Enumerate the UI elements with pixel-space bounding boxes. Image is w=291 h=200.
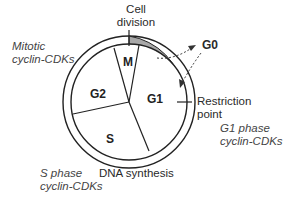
restriction-line1: Restriction	[197, 95, 251, 108]
phase-g1-label: G1	[147, 92, 163, 106]
g0-label: G0	[202, 39, 218, 52]
g1-cdk-label: G1 phase cyclin-CDKs	[220, 122, 283, 148]
cell-division-label: Cell division	[111, 3, 161, 29]
dna-synthesis-label: DNA synthesis	[99, 167, 174, 180]
phase-s-label: S	[106, 132, 114, 146]
restriction-point-label: Restriction point	[197, 95, 251, 121]
phase-g2-label: G2	[90, 87, 106, 101]
mitotic-line2: cyclin-CDKs	[12, 53, 75, 66]
g1cdk-line1: G1 phase	[220, 122, 283, 135]
mitotic-line1: Mitotic	[12, 40, 75, 53]
restriction-line2: point	[197, 108, 251, 121]
g1cdk-line2: cyclin-CDKs	[220, 135, 283, 148]
scdk-line1: S phase	[40, 167, 103, 180]
mitotic-cdk-label: Mitotic cyclin-CDKs	[12, 40, 75, 66]
s-cdk-label: S phase cyclin-CDKs	[40, 167, 103, 193]
cell-division-line1: Cell	[111, 3, 161, 16]
scdk-line2: cyclin-CDKs	[40, 180, 103, 193]
cell-division-line2: division	[111, 16, 161, 29]
phase-m-label: M	[123, 55, 133, 69]
